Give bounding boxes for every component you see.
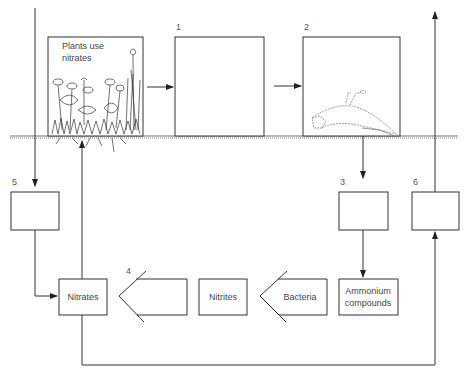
box-5-number: 5 bbox=[12, 177, 17, 187]
arrow-box5-to-nitrates bbox=[35, 230, 57, 296]
nitrites-box: Nitrites bbox=[199, 279, 247, 315]
plants-box: Plants use nitrates bbox=[48, 37, 143, 152]
nitrates-label: Nitrates bbox=[67, 292, 99, 302]
plants-label-line1: Plants use bbox=[62, 41, 104, 51]
box-1-number: 1 bbox=[176, 22, 181, 32]
step-4-chevron: 4 bbox=[119, 266, 187, 322]
nitrates-box: Nitrates bbox=[59, 279, 107, 315]
nitrites-label: Nitrites bbox=[209, 292, 238, 302]
ammonium-box: Ammonium compounds bbox=[339, 279, 398, 315]
bacteria-chevron: Bacteria bbox=[260, 271, 327, 322]
box-3-number: 3 bbox=[340, 177, 345, 187]
box-2-number: 2 bbox=[304, 22, 309, 32]
box-1: 1 bbox=[175, 22, 264, 136]
nitrogen-cycle-diagram: Plants use nitrates 1 2 bbox=[0, 0, 469, 375]
box-2: 2 bbox=[303, 22, 400, 136]
ammonium-label-line1: Ammonium bbox=[345, 286, 391, 296]
plants-label-line2: nitrates bbox=[62, 53, 92, 63]
bacteria-label: Bacteria bbox=[283, 292, 316, 302]
box-3: 3 bbox=[339, 177, 388, 230]
step-4-number: 4 bbox=[126, 266, 131, 276]
box-6-number: 6 bbox=[413, 177, 418, 187]
ammonium-label-line2: compounds bbox=[345, 298, 392, 308]
